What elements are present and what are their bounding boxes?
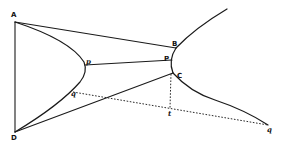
label-t: t [168,109,172,118]
label-P: P [164,55,169,63]
label-q-right: q [267,125,272,134]
dotted-line-Ct [170,74,171,108]
right-branch-vertex [171,48,176,73]
label-C: C [177,72,182,80]
line-pP [85,60,172,65]
label-p: p [86,57,91,66]
left-hyperbola-branch [15,22,85,132]
geometry-diagram: A B P C p q D t q [0,0,283,145]
line-AB [15,22,176,48]
right-branch-lower [173,73,268,125]
label-D: D [11,134,17,142]
label-A: A [11,11,17,19]
label-B: B [172,40,177,48]
right-branch-upper [176,9,227,48]
line-DC [15,73,173,132]
label-q-left: q [71,89,76,98]
